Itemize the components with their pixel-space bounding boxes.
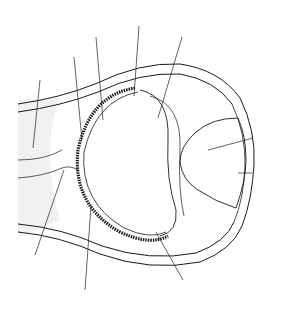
cornea xyxy=(240,98,254,226)
outer-wall-top xyxy=(18,64,240,104)
retina-inner-boundary xyxy=(150,96,184,216)
eye-diagram xyxy=(0,0,294,314)
outer-wall-bottom xyxy=(18,226,242,266)
leader-lens xyxy=(208,138,253,150)
outer-wall-top-inner xyxy=(18,74,232,112)
cornea-inner xyxy=(232,104,245,222)
retina-boundary xyxy=(140,90,176,236)
optic-stalk-tissue xyxy=(18,98,60,238)
leader-retina2 xyxy=(134,26,139,96)
lens xyxy=(180,118,246,208)
pigment-layer xyxy=(77,88,168,240)
leader-retina1 xyxy=(158,37,182,118)
outer-wall-bottom-inner xyxy=(18,222,234,256)
